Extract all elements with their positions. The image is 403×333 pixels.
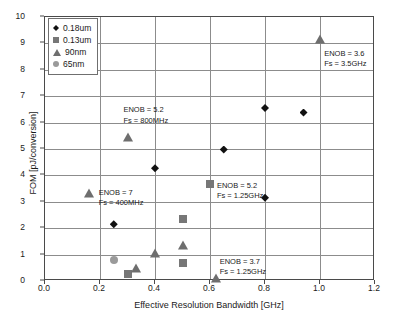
circle-marker-icon (53, 61, 59, 67)
y-axis-tick-mark (40, 121, 44, 122)
legend-item-label: 90nm (65, 48, 86, 57)
gridline-vertical (100, 17, 101, 279)
x-axis-tick-mark (154, 280, 155, 284)
x-axis-tick-label: 0.8 (258, 284, 270, 293)
data-point-90nm (123, 132, 133, 141)
x-axis-tick-label: 0.4 (148, 284, 160, 293)
annotation-label: ENOB = 5.2Fs = 800MHz (123, 105, 168, 125)
y-axis-tick-mark (40, 95, 44, 96)
scatter-chart: ENOB = 5.2Fs = 800MHzENOB = 7Fs = 400MHz… (0, 0, 403, 333)
x-axis-tick-mark (319, 280, 320, 284)
y-axis-tick-label: 6 (9, 117, 25, 126)
data-point-90nm (84, 188, 94, 197)
annotation-label: ENOB = 7Fs = 400MHz (99, 188, 144, 208)
annotation-line-enob: ENOB = 7 (99, 188, 144, 198)
legend-item-90nm[interactable]: 90nm (53, 46, 91, 58)
y-axis-tick-mark (40, 253, 44, 254)
y-axis-tick-mark (40, 16, 44, 17)
x-axis-tick-mark (44, 280, 45, 284)
data-point-013um (206, 180, 214, 188)
annotation-line-fs: Fs = 400MHz (99, 198, 144, 208)
y-axis-tick-label: 5 (9, 144, 25, 153)
gridline-horizontal (45, 149, 373, 150)
gridline-vertical (320, 17, 321, 279)
y-axis-tick-label: 4 (9, 170, 25, 179)
y-axis-tick-label: 0 (9, 276, 25, 285)
y-axis-tick-label: 7 (9, 91, 25, 100)
legend-item-label: 0.18um (63, 24, 91, 33)
annotation-line-fs: Fs = 3.5GHz (324, 59, 366, 69)
annotation-line-fs: Fs = 800MHz (123, 116, 168, 126)
y-axis-tick-mark (40, 200, 44, 201)
legend-item-65nm[interactable]: 65nm (53, 58, 91, 70)
legend-item-018um[interactable]: 0.18um (53, 22, 91, 34)
gridline-vertical (155, 17, 156, 279)
data-point-018um (110, 220, 118, 228)
legend-item-label: 65nm (63, 60, 84, 69)
data-point-018um (300, 109, 308, 117)
annotation-label: ENOB = 5.2Fs = 1.25GHz (217, 181, 263, 201)
gridline-horizontal (45, 255, 373, 256)
data-point-90nm (178, 240, 188, 249)
legend: 0.18um0.13um90nm65nm (48, 18, 98, 75)
y-axis-tick-label: 2 (9, 223, 25, 232)
data-point-018um (261, 104, 269, 112)
annotation-line-enob: ENOB = 5.2 (123, 105, 168, 115)
y-axis-tick-label: 1 (9, 249, 25, 258)
y-axis-tick-mark (40, 148, 44, 149)
x-axis-tick-label: 1.2 (368, 284, 380, 293)
gridline-horizontal (45, 175, 373, 176)
x-axis-tick-mark (99, 280, 100, 284)
gridline-vertical (210, 17, 211, 279)
y-axis-tick-mark (40, 227, 44, 228)
x-axis-tick-label: 0.2 (93, 284, 105, 293)
gridline-vertical (265, 17, 266, 279)
legend-item-label: 0.13um (63, 36, 91, 45)
annotation-line-enob: ENOB = 3.6 (324, 49, 366, 59)
x-axis-tick-label: 0.0 (38, 284, 50, 293)
data-point-90nm (150, 249, 160, 258)
data-point-018um (220, 146, 228, 154)
gridline-horizontal (45, 228, 373, 229)
triangle-marker-icon (53, 49, 61, 56)
y-axis-tick-label: 9 (9, 38, 25, 47)
gridline-horizontal (45, 123, 373, 124)
annotation-line-fs: Fs = 1.25GHz (220, 267, 266, 277)
annotation-line-enob: ENOB = 3.7 (220, 257, 266, 267)
gridline-horizontal (45, 96, 373, 97)
data-point-90nm (315, 35, 325, 44)
gridline-horizontal (45, 202, 373, 203)
annotation-label: ENOB = 3.6Fs = 3.5GHz (324, 49, 366, 69)
y-axis-tick-label: 3 (9, 197, 25, 206)
legend-item-013um[interactable]: 0.13um (53, 34, 91, 46)
y-axis-label: FOM [pJ/conversion] (28, 78, 38, 228)
y-axis-tick-mark (40, 68, 44, 69)
data-point-013um (179, 259, 187, 267)
annotation-line-fs: Fs = 1.25GHz (217, 191, 263, 201)
data-point-013um (179, 215, 187, 223)
square-marker-icon (53, 37, 59, 43)
y-axis-tick-label: 10 (9, 12, 25, 21)
annotation-label: ENOB = 3.7Fs = 1.25GHz (220, 257, 266, 277)
x-axis-label: Effective Resolution Bandwidth [GHz] (44, 300, 374, 310)
data-point-90nm (131, 263, 141, 272)
diamond-marker-icon (53, 25, 59, 31)
y-axis-tick-label: 8 (9, 65, 25, 74)
annotation-line-enob: ENOB = 5.2 (217, 181, 263, 191)
x-axis-tick-mark (264, 280, 265, 284)
x-axis-tick-label: 1.0 (313, 284, 325, 293)
x-axis-tick-label: 0.6 (203, 284, 215, 293)
y-axis-tick-mark (40, 174, 44, 175)
x-axis-tick-mark (374, 280, 375, 284)
data-point-018um (151, 164, 159, 172)
data-point-65nm (110, 256, 118, 264)
y-axis-tick-mark (40, 42, 44, 43)
